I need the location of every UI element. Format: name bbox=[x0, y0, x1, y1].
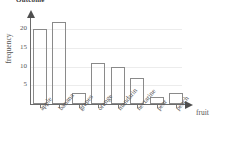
y-axis-tick-label: 5 bbox=[5, 81, 27, 88]
x-axis-category-labels: applebananagrapesorangemandarinnectarine… bbox=[30, 105, 190, 143]
bar-chart: Outcome 5101520 frequency fruit appleban… bbox=[0, 0, 226, 143]
bar bbox=[33, 29, 47, 104]
y-axis-label: frequency bbox=[4, 19, 13, 79]
bar bbox=[52, 22, 66, 105]
x-axis-label: fruit bbox=[196, 108, 209, 117]
bar-series bbox=[30, 14, 186, 104]
